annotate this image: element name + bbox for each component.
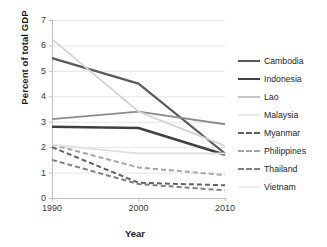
legend-swatch-icon xyxy=(238,182,260,192)
legend-item-philippines[interactable]: Philippines xyxy=(238,142,327,160)
legend-label: Indonesia xyxy=(264,74,302,84)
series-line-malaysia xyxy=(52,39,225,146)
legend-swatch-icon xyxy=(238,92,260,102)
series-line-cambodia xyxy=(52,58,225,153)
legend-swatch-icon xyxy=(238,110,260,120)
series-line-thailand xyxy=(52,160,225,191)
legend-label: Thailand xyxy=(264,164,297,174)
legend-label: Lao xyxy=(264,92,279,102)
legend-item-lao[interactable]: Lao xyxy=(238,88,327,106)
legend-item-indonesia[interactable]: Indonesia xyxy=(238,70,327,88)
legend-label: Vietnam xyxy=(264,182,296,192)
legend-label: Cambodia xyxy=(264,56,304,66)
legend-item-thailand[interactable]: Thailand xyxy=(238,160,327,178)
line-chart: Percent of total GDP Year 76543210 19902… xyxy=(0,0,327,247)
legend-item-cambodia[interactable]: Cambodia xyxy=(238,52,327,70)
legend-swatch-icon xyxy=(238,56,260,66)
legend-label: Myanmar xyxy=(264,128,300,138)
legend-swatch-icon xyxy=(238,74,260,84)
series-line-philippines xyxy=(52,145,225,176)
legend-item-myanmar[interactable]: Myanmar xyxy=(238,124,327,142)
legend-item-vietnam[interactable]: Vietnam xyxy=(238,178,327,196)
chart-legend: CambodiaIndonesiaLaoMalaysiaMyanmarPhili… xyxy=(238,52,327,196)
legend-swatch-icon xyxy=(238,128,260,138)
legend-swatch-icon xyxy=(238,146,260,156)
legend-item-malaysia[interactable]: Malaysia xyxy=(238,106,327,124)
legend-label: Philippines xyxy=(264,146,306,156)
legend-label: Malaysia xyxy=(264,110,298,120)
legend-swatch-icon xyxy=(238,164,260,174)
